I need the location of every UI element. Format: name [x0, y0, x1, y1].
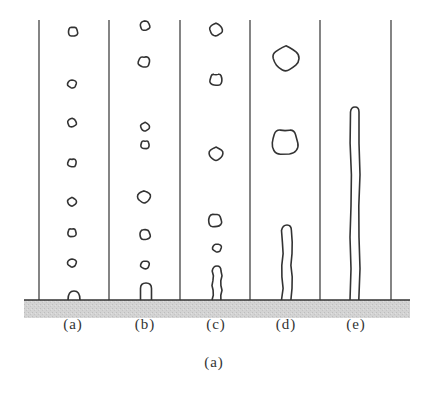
bubble — [209, 147, 223, 160]
bubble — [69, 27, 78, 36]
bubbles-layer — [67, 21, 299, 269]
attached-vapor-column — [282, 225, 293, 300]
figure-caption: (a) — [204, 354, 224, 371]
bubble — [273, 46, 299, 71]
bubble — [141, 122, 150, 131]
bubble — [138, 57, 150, 67]
bubble — [210, 23, 223, 36]
bubble — [141, 261, 150, 269]
bubble — [68, 229, 76, 237]
bubble — [140, 230, 150, 240]
column-label-b: (b) — [135, 316, 156, 333]
attached-vapor-cap — [68, 291, 80, 300]
attached-vapor-layer — [68, 107, 360, 300]
bubble — [141, 141, 149, 149]
bubble — [212, 244, 221, 252]
boiling-regimes-diagram — [0, 0, 428, 394]
bubble — [68, 118, 77, 127]
bubble — [67, 259, 76, 267]
column-label-e: (e) — [346, 316, 366, 333]
bubble — [67, 80, 76, 88]
attached-vapor-dome — [141, 283, 152, 300]
attached-vapor-jet — [350, 107, 360, 300]
column-label-c: (c) — [206, 316, 226, 333]
attached-vapor-column — [212, 266, 222, 300]
bubble — [137, 191, 150, 203]
bubble — [140, 21, 150, 30]
bubble — [210, 74, 222, 85]
column-label-d: (d) — [276, 316, 297, 333]
bubble — [209, 214, 222, 226]
bubble — [68, 197, 77, 206]
bubble — [272, 130, 298, 154]
bubble-regime-figure: (a) (b) (c) (d) (e) (a) — [0, 0, 428, 394]
bubble — [68, 159, 77, 167]
column-label-a: (a) — [63, 316, 83, 333]
